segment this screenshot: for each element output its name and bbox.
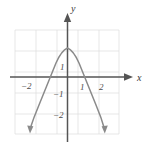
y-axis-label: y [70, 3, 76, 14]
graph-figure: y x −2 1 2 1 −1 −2 [0, 0, 149, 147]
xtick-label-neg2: −2 [21, 81, 32, 91]
parabola-plot: y x −2 1 2 1 −1 −2 [0, 0, 149, 147]
x-axis-label: x [136, 72, 142, 83]
x-axis [10, 73, 133, 81]
xtick-label-2: 2 [99, 82, 104, 92]
xtick-label-1: 1 [80, 82, 85, 92]
curve-arrow-right-icon [102, 126, 108, 134]
ytick-label-neg2: −2 [53, 110, 64, 120]
ytick-label-1: 1 [60, 62, 65, 72]
ytick-label-neg1: −1 [53, 89, 64, 99]
curve-arrow-left-icon [27, 126, 33, 134]
